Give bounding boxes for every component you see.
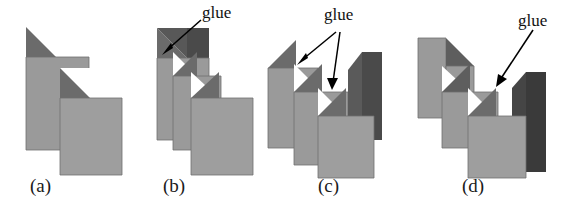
panel-c-label: (c) (318, 176, 339, 195)
panel-c: glue (c) (266, 0, 416, 201)
glue-label-d: glue (518, 12, 547, 29)
panel-c-illustration (266, 0, 416, 201)
panel-d-label: (d) (462, 176, 484, 195)
panel-b: glue (b) (135, 0, 270, 201)
panel-a-illustration (0, 0, 135, 201)
glue-arrow-right (327, 32, 340, 90)
panel-b-label: (b) (163, 176, 185, 195)
glue-arrowhead-left (297, 53, 308, 65)
sheet-front-face (60, 98, 122, 175)
back-panel-main (526, 72, 546, 172)
figure-assembly-stages: (a) (0, 0, 566, 201)
glue-label-c: glue (324, 6, 353, 23)
panel-a-label: (a) (30, 176, 51, 195)
sheet-front-face (318, 116, 374, 178)
panel-d-illustration (408, 0, 566, 201)
sheet-front-face (468, 116, 526, 178)
panel-d: glue (d) (408, 0, 566, 201)
glue-arrowhead-right (327, 78, 338, 90)
panel-a: (a) (0, 0, 135, 201)
glue-label-b: glue (202, 4, 231, 21)
sheet-front (191, 72, 253, 175)
glue-arrowhead (496, 74, 507, 87)
sheet-front-face (191, 98, 253, 175)
panel-b-illustration (135, 0, 270, 201)
glue-arrow-left (297, 32, 336, 65)
sheet-front (60, 68, 122, 175)
